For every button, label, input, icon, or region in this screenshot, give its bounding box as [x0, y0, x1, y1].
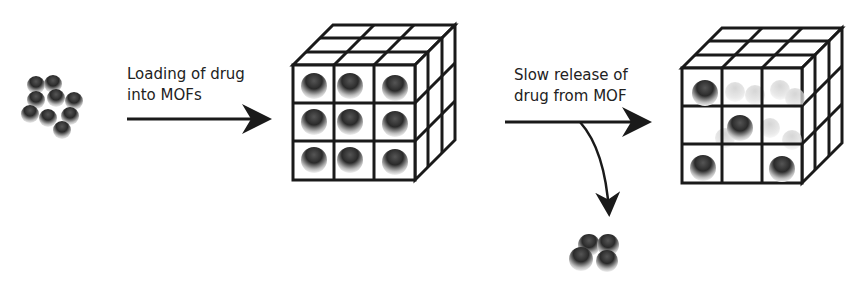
diagram-svg — [0, 0, 866, 289]
loaded-mof-cube — [293, 25, 455, 180]
release-down-arrow — [580, 122, 609, 212]
diagram-canvas: Loading of drug into MOFs Slow release o… — [0, 0, 866, 289]
released-drug-cluster — [569, 234, 619, 272]
loading-label: Loading of drug into MOFs — [127, 64, 245, 106]
release-label-line2: drug from MOF — [514, 86, 628, 107]
release-label-line1: Slow release of — [514, 65, 628, 86]
partially-emptied-mof-cube — [682, 28, 842, 183]
free-drug-cluster — [21, 75, 83, 139]
release-label: Slow release of drug from MOF — [514, 65, 628, 107]
loading-label-line2: into MOFs — [127, 85, 245, 106]
loading-label-line1: Loading of drug — [127, 64, 245, 85]
